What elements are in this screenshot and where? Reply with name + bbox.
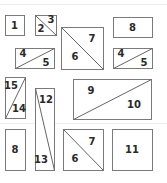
piece-number-label: 7 xyxy=(89,136,96,147)
box-1: 1 xyxy=(6,16,25,36)
piece-number-label: 12 xyxy=(39,94,53,105)
piece-number-label: 3 xyxy=(48,14,55,25)
box-9-10: 910 xyxy=(74,80,152,120)
piece-number-label: 4 xyxy=(118,48,125,59)
piece-number-label: 6 xyxy=(72,153,79,164)
box-4-5-left: 45 xyxy=(16,48,55,69)
box-6-7-bottom: 76 xyxy=(64,130,104,171)
partition-diagram: 13276845451514121391087611 xyxy=(0,0,167,183)
box-2-3: 32 xyxy=(36,14,57,36)
box-4-5-right: 45 xyxy=(114,48,153,69)
piece-number-label: 8 xyxy=(12,144,19,155)
piece-number-label: 5 xyxy=(43,57,50,68)
piece-number-label: 14 xyxy=(12,103,26,114)
box-15-14: 1514 xyxy=(4,78,26,119)
piece-number-label: 9 xyxy=(88,85,95,96)
box-11: 11 xyxy=(113,130,153,171)
piece-number-label: 4 xyxy=(20,48,27,59)
piece-number-label: 5 xyxy=(141,57,148,68)
piece-number-label: 10 xyxy=(127,99,141,110)
piece-number-label: 15 xyxy=(4,80,18,91)
box-12-13: 1213 xyxy=(34,89,54,171)
piece-number-label: 6 xyxy=(72,51,79,62)
piece-number-label: 11 xyxy=(125,144,139,155)
piece-number-label: 7 xyxy=(89,33,96,44)
piece-number-label: 2 xyxy=(38,23,45,34)
piece-number-label: 13 xyxy=(34,154,48,165)
piece-number-label: 1 xyxy=(11,20,18,31)
box-8-top: 8 xyxy=(114,18,153,38)
box-6-7-top: 76 xyxy=(62,28,104,70)
piece-number-label: 8 xyxy=(129,22,136,33)
box-8-bottom: 8 xyxy=(6,130,26,171)
